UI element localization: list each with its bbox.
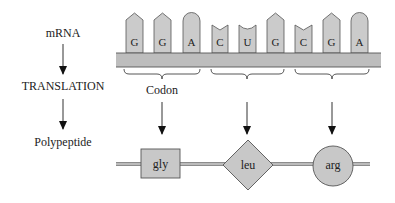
arrow-head-icon	[243, 126, 251, 135]
residue-label-arg: arg	[325, 158, 340, 172]
translation-diagram: mRNA TRANSLATION Polypeptide G G A C U G…	[0, 0, 395, 203]
mrna-label: mRNA	[46, 26, 81, 40]
base-letter: G	[159, 36, 167, 48]
base-letter: G	[328, 36, 336, 48]
mrna-backbone	[116, 53, 381, 67]
base-letter: A	[188, 36, 196, 48]
base-letter: G	[272, 36, 280, 48]
base-letter: C	[300, 36, 307, 48]
mrna-bases: G G A C U G C G A	[126, 13, 368, 54]
codon-braces	[124, 69, 369, 79]
base-letter: G	[131, 36, 139, 48]
arrow-head-icon	[59, 66, 67, 75]
arrow-head-icon	[59, 121, 67, 130]
polypeptide-label: Polypeptide	[34, 135, 91, 149]
residue-label-leu: leu	[241, 158, 256, 172]
arrow-head-icon	[158, 126, 166, 135]
base-letter: U	[244, 36, 252, 48]
codon-brace-3	[295, 69, 369, 79]
arrow-head-icon	[328, 126, 336, 135]
codon-label: Codon	[146, 83, 178, 97]
residue-label-gly: gly	[153, 157, 168, 171]
codon-brace-1	[124, 69, 200, 79]
base-letter: C	[216, 36, 223, 48]
codon-brace-2	[211, 69, 284, 79]
translation-label: TRANSLATION	[22, 79, 105, 93]
base-letter: A	[356, 36, 364, 48]
